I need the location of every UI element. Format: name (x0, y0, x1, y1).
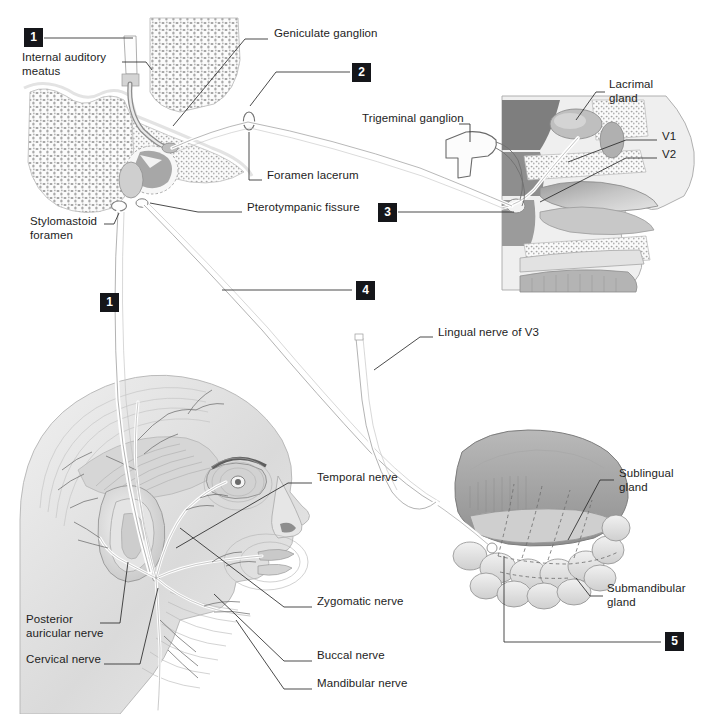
label-lingual-nerve-of-v3: Lingual nerve of V3 (438, 326, 539, 340)
leader-cervical (104, 588, 158, 664)
label-trigeminal-ganglion: Trigeminal ganglion (362, 112, 464, 126)
label-internal-auditory-meatus: Internal auditory meatus (22, 51, 106, 78)
label-v1: V1 (662, 130, 676, 144)
leader-mandibular (236, 620, 312, 689)
figure-canvas: Geniculate ganglion Internal auditory me… (0, 0, 706, 714)
marker-1-middle[interactable]: 1 (100, 293, 119, 312)
leader-buccal (214, 594, 312, 661)
nerve-pathways (115, 122, 512, 572)
label-temporal-nerve: Temporal nerve (317, 471, 398, 485)
leader-submandibular (576, 578, 603, 596)
leader-lines (44, 38, 661, 689)
marker-2[interactable]: 2 (352, 63, 371, 82)
label-v2: V2 (662, 148, 676, 162)
sagittal-nasal-cavity (446, 96, 694, 292)
leader-marker-2 (250, 72, 350, 106)
label-posterior-auricular-nerve: Posterior auricular nerve (26, 613, 104, 640)
leader-v2 (540, 158, 657, 202)
leader-internal-auditory (122, 62, 152, 70)
marker-1-top[interactable]: 1 (24, 28, 43, 47)
marker-3[interactable]: 3 (378, 203, 397, 222)
marker-5[interactable]: 5 (665, 632, 684, 651)
marker-4[interactable]: 4 (356, 281, 375, 300)
label-geniculate-ganglion: Geniculate ganglion (274, 27, 378, 41)
leader-sublingual (568, 480, 614, 540)
label-submandibular-gland: Submandibular gland (607, 582, 686, 609)
label-stylomastoid-foramen: Stylomastoid foramen (30, 215, 97, 242)
label-buccal-nerve: Buccal nerve (317, 649, 385, 663)
label-lacrimal-gland: Lacrimal gland (609, 78, 653, 105)
temporal-bone-cross-section (24, 18, 255, 213)
tongue-salivary-glands (430, 430, 630, 609)
leader-lingual (374, 337, 433, 370)
leader-zygomatic (180, 528, 312, 607)
leader-temporal-nerve (176, 483, 312, 548)
label-pterotympanic-fissure: Pterotympanic fissure (247, 201, 360, 215)
leader-trigeminal (459, 124, 470, 142)
label-sublingual-gland: Sublingual gland (619, 467, 674, 494)
leader-stylomastoid (104, 213, 119, 224)
label-foramen-lacerum: Foramen lacerum (267, 169, 359, 183)
leader-foramen-lacerum (249, 132, 262, 180)
leader-pterotympanic (150, 203, 242, 212)
label-cervical-nerve: Cervical nerve (26, 653, 101, 667)
leader-v1 (568, 140, 657, 162)
leader-lacrimal (576, 92, 605, 120)
leader-posterior-auricular (100, 562, 128, 623)
leader-geniculate (173, 39, 268, 126)
label-mandibular-nerve: Mandibular nerve (317, 677, 407, 691)
label-zygomatic-nerve: Zygomatic nerve (317, 595, 404, 609)
